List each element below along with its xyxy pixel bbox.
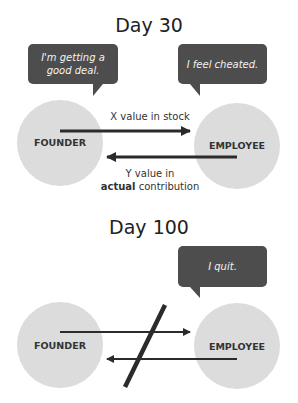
broken-exchange-slash	[125, 305, 165, 387]
arrows-layer	[0, 0, 298, 403]
